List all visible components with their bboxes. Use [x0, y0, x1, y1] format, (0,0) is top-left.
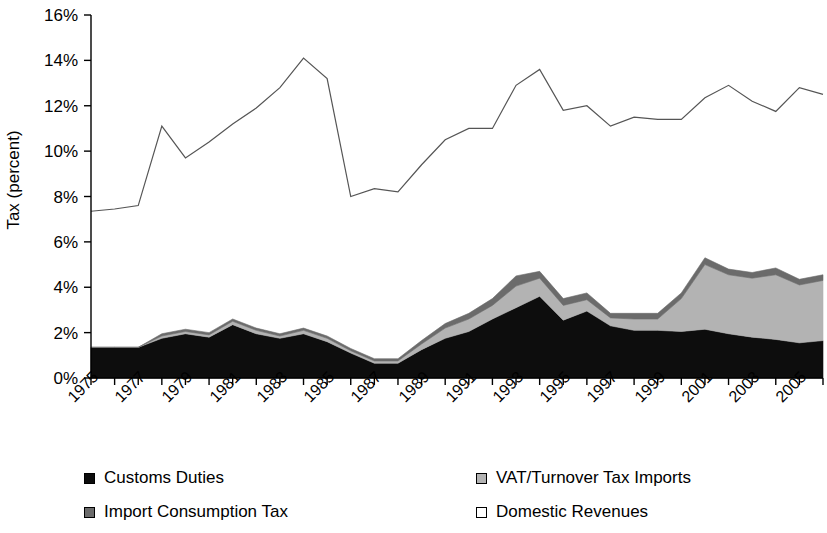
legend-item: Domestic Revenues	[476, 502, 648, 522]
x-axis-tick-label: 2001	[679, 369, 715, 405]
legend-item: Import Consumption Tax	[84, 502, 288, 522]
x-axis-tick-label: 2005	[773, 369, 809, 405]
x-axis-tick-label: 1989	[396, 369, 432, 405]
legend-swatch-icon	[84, 473, 95, 484]
x-axis-tick-labels: 1975197719791981198319851987198919911993…	[0, 0, 827, 470]
legend-swatch-icon	[84, 507, 95, 518]
x-axis-tick-label: 1987	[348, 369, 384, 405]
x-axis-tick-label: 1993	[490, 369, 526, 405]
x-axis-tick-label: 1975	[65, 369, 101, 405]
x-axis-tick-label: 1981	[207, 369, 243, 405]
x-axis-tick-label: 2003	[726, 369, 762, 405]
legend-swatch-icon	[476, 507, 487, 518]
legend-item-label: Customs Duties	[104, 468, 224, 488]
x-axis-tick-label: 1991	[443, 369, 479, 405]
chart-legend: Customs DutiesVAT/Turnover Tax ImportsIm…	[84, 466, 824, 528]
x-axis-tick-label: 1977	[112, 369, 148, 405]
legend-item-label: Import Consumption Tax	[104, 502, 288, 522]
x-axis-tick-label: 1985	[301, 369, 337, 405]
x-axis-tick-label: 1983	[254, 369, 290, 405]
chart-container: Tax (percent) 0%2%4%6%8%10%12%14%16% 197…	[0, 0, 827, 533]
legend-item: Customs Duties	[84, 468, 224, 488]
legend-item: VAT/Turnover Tax Imports	[476, 468, 691, 488]
x-axis-tick-label: 1995	[537, 369, 573, 405]
x-axis-tick-label: 1997	[584, 369, 620, 405]
legend-item-label: Domestic Revenues	[496, 502, 648, 522]
x-axis-tick-label: 1999	[632, 369, 668, 405]
legend-swatch-icon	[476, 473, 487, 484]
legend-item-label: VAT/Turnover Tax Imports	[496, 468, 691, 488]
x-axis-tick-label: 1979	[159, 369, 195, 405]
